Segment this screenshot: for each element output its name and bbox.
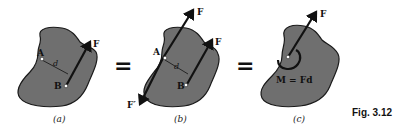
panel-b: A B d F F F′ (b) (127, 7, 222, 124)
caption-b: (b) (174, 114, 187, 124)
label-f-a: F (93, 39, 100, 49)
label-f-b: F (215, 37, 222, 47)
label-f-top-b: F (197, 7, 204, 17)
point-c (286, 55, 290, 59)
label-moment-c: M = Fd (276, 75, 313, 85)
label-a-a: A (36, 48, 45, 58)
caption-a: (a) (53, 114, 66, 124)
equals-sign-2: = (236, 53, 254, 78)
label-d-a: d (53, 59, 58, 68)
figure-label: Fig. 3.12 (352, 107, 392, 118)
label-a-b: A (152, 47, 161, 57)
panel-a: A B d F (a) (18, 27, 100, 124)
point-b-b (184, 83, 188, 87)
label-f-prime-b: F′ (127, 100, 136, 110)
point-a-b (163, 56, 167, 60)
label-f-c: F (320, 9, 327, 19)
label-b-a: B (54, 81, 62, 91)
panel-c: F M = Fd (c) (261, 9, 339, 124)
label-b-b: B (177, 81, 185, 91)
equals-sign-1: = (114, 53, 132, 78)
rigid-body-b (144, 27, 219, 106)
caption-c: (c) (293, 114, 306, 124)
point-b-a (64, 84, 68, 88)
force-couple-diagram: A B d F (a) = A B d F F F′ (b) = F M = F… (0, 0, 399, 136)
label-d-b: d (174, 62, 179, 71)
